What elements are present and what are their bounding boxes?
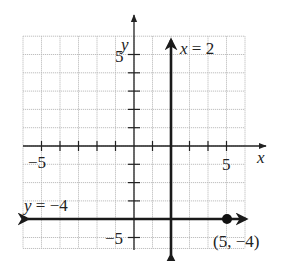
point-5-neg4	[222, 214, 232, 224]
hline-label-var: y	[22, 196, 32, 215]
hline-label-rest: = −4	[32, 196, 69, 215]
point-label: (5, −4)	[213, 232, 259, 251]
y-tick-label-5: 5	[115, 47, 124, 66]
y-tick-label-neg5: −5	[105, 229, 123, 248]
vline-label-rest: = 2	[188, 39, 215, 58]
x-tick-label-5: 5	[222, 155, 231, 174]
vline-equation-label: x = 2	[179, 39, 214, 58]
hline-equation-label: y = −4	[22, 196, 68, 215]
coordinate-plane: y x 5 −5 −5 5 x = 2 y = −4 (5, −4)	[0, 0, 284, 261]
x-tick-label-neg5: −5	[28, 153, 46, 172]
x-axis-label: x	[256, 148, 265, 167]
